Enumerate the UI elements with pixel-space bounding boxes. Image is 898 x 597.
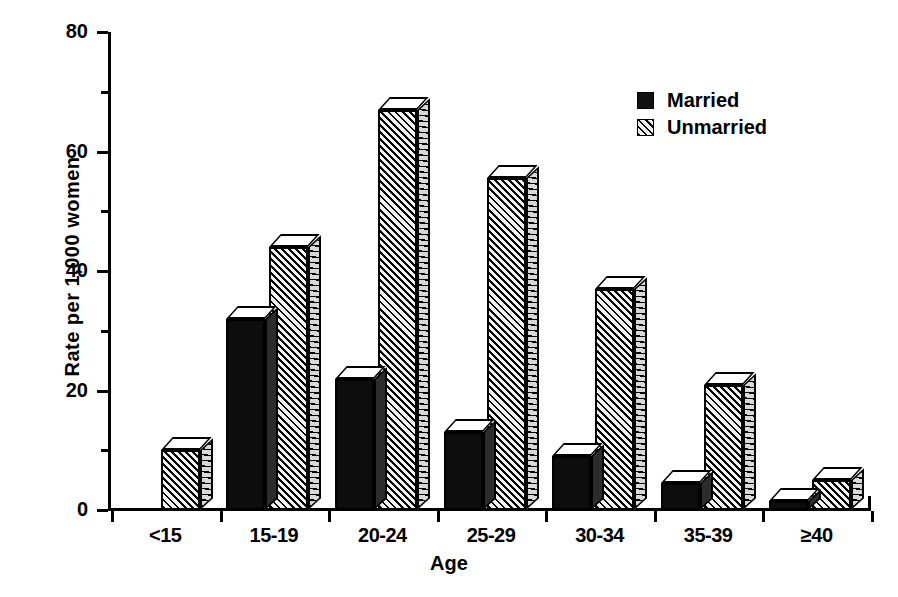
chart-figure: Rate per 1,000 women 020406080 <1515-192… <box>0 0 898 597</box>
y-tick-label: 80 <box>26 21 88 41</box>
legend-item-unmarried: Unmarried <box>637 115 767 140</box>
x-tick-label: 20-24 <box>328 524 437 547</box>
x-tick <box>111 511 114 522</box>
x-tick <box>437 511 440 522</box>
bar-side-face <box>526 167 539 510</box>
legend: Married Unmarried <box>637 88 767 142</box>
legend-swatch-unmarried-icon <box>637 119 654 136</box>
y-tick-major <box>97 509 108 512</box>
bar-side-face <box>634 277 647 510</box>
bar-unmarried-<15 <box>161 450 200 510</box>
y-tick-label: 60 <box>26 141 88 161</box>
bar-front-face <box>335 379 374 510</box>
x-tick-label: ≥40 <box>762 524 871 547</box>
bar-married-25-29 <box>444 432 483 510</box>
bar-married-30-34 <box>552 456 591 510</box>
bar-front-face <box>161 450 200 510</box>
bar-front-face <box>444 432 483 510</box>
y-tick-minor <box>101 91 108 94</box>
x-tick-label: 25-29 <box>437 524 546 547</box>
bar-married-35-39 <box>661 483 700 510</box>
x-tick <box>220 511 223 522</box>
x-axis-title: Age <box>0 552 898 575</box>
bar-front-face <box>769 501 808 510</box>
y-tick-major <box>97 270 108 273</box>
y-tick-major <box>97 31 108 34</box>
bar-married-20-24 <box>335 379 374 510</box>
x-tick <box>328 511 331 522</box>
bar-front-face <box>226 319 265 510</box>
x-tick-label: <15 <box>111 524 220 547</box>
y-tick-major <box>97 151 108 154</box>
legend-label-married: Married <box>667 89 739 112</box>
bar-side-face <box>308 235 321 510</box>
y-tick-minor <box>101 210 108 213</box>
legend-swatch-married-icon <box>637 92 654 109</box>
bar-side-face <box>200 439 213 510</box>
legend-label-unmarried: Unmarried <box>667 116 767 139</box>
y-tick-label: 20 <box>26 380 88 400</box>
bar-front-face <box>552 456 591 510</box>
y-tick-label: 40 <box>26 260 88 280</box>
y-tick-minor <box>101 449 108 452</box>
x-tick-label: 35-39 <box>654 524 763 547</box>
x-tick-label: 15-19 <box>220 524 329 547</box>
bar-front-face <box>661 483 700 510</box>
x-tick <box>871 511 874 522</box>
bar-side-face <box>743 373 756 510</box>
bar-side-face <box>483 421 496 510</box>
bar-married-15-19 <box>226 319 265 510</box>
x-tick <box>762 511 765 522</box>
legend-item-married: Married <box>637 88 767 113</box>
bar-side-face <box>374 367 387 510</box>
x-tick-label: 30-34 <box>545 524 654 547</box>
y-tick-major <box>97 390 108 393</box>
bar-side-face <box>417 98 430 510</box>
x-tick <box>545 511 548 522</box>
y-tick-label: 0 <box>26 499 88 519</box>
y-tick-minor <box>101 330 108 333</box>
bar-side-face <box>265 307 278 510</box>
bar-married-≥40 <box>769 501 808 510</box>
x-tick <box>654 511 657 522</box>
